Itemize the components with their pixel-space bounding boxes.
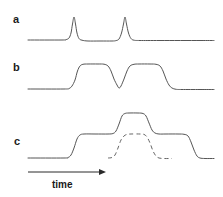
time-axis [28, 169, 106, 175]
time-axis-label: time [52, 180, 73, 190]
trace-label-c: c [14, 136, 20, 147]
trace-canvas [0, 0, 223, 197]
trace-c-dashed-path [108, 134, 172, 159]
panel-b [28, 64, 214, 90]
panel-c [28, 113, 214, 159]
trace-label-b: b [13, 62, 20, 73]
trace-c-solid-path [28, 113, 214, 159]
waveform-figure: a b c time [0, 0, 223, 197]
trace-a-path [28, 17, 214, 41]
trace-label-a: a [13, 14, 19, 25]
arrow-right-icon [99, 169, 106, 175]
panel-a [28, 17, 214, 41]
trace-b-path [28, 64, 214, 90]
